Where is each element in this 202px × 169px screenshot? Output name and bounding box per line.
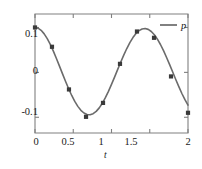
plot-frame (35, 14, 188, 133)
data-point (135, 29, 139, 33)
data-point (101, 101, 105, 105)
data-point (152, 36, 156, 40)
legend-label-p: p (181, 20, 186, 31)
data-point (169, 74, 173, 78)
x-tick-label-3: 1.5 (120, 136, 142, 147)
x-tick-label-1: 0.5 (57, 136, 79, 147)
x-axis-ticks (35, 14, 188, 133)
x-tick-label-4: 2 (181, 136, 195, 147)
data-point (50, 45, 54, 49)
x-tick-label-0: 0 (29, 136, 43, 147)
chart-figure: 0.1 0 -0.1 0 0.5 1 1.5 2 t p (0, 0, 202, 169)
y-tick-label-1: 0 (33, 65, 38, 76)
data-point (67, 87, 71, 91)
series-markers-p (33, 25, 190, 119)
x-tick-label-2: 1 (94, 136, 108, 147)
y-axis-ticks (35, 27, 188, 117)
data-point (186, 111, 190, 115)
y-tick-label-2: -0.1 (21, 106, 38, 117)
data-point (84, 115, 88, 119)
series-line-p (35, 27, 188, 114)
x-axis-title: t (104, 150, 107, 160)
data-point (118, 62, 122, 66)
y-tick-label-0: 0.1 (25, 28, 38, 39)
